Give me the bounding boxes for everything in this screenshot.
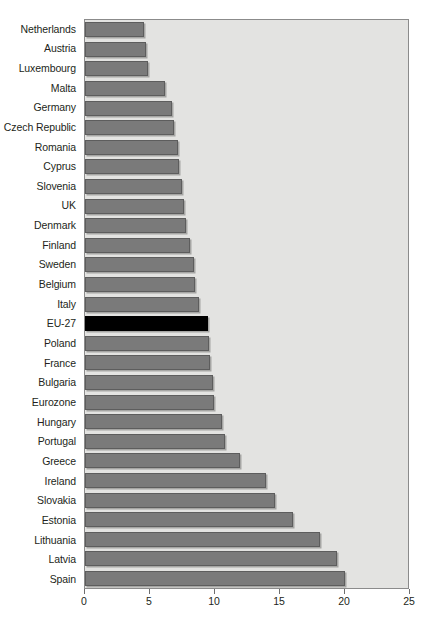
bar [85, 238, 190, 253]
bar [85, 453, 240, 468]
x-tick-mark [409, 589, 410, 594]
bar-row [85, 314, 408, 334]
category-label: Poland [0, 334, 80, 354]
bar-row [85, 157, 408, 177]
bar-row [85, 79, 408, 99]
bar-row [85, 59, 408, 79]
bar-row [85, 353, 408, 373]
bar [85, 375, 213, 390]
bar [85, 414, 222, 429]
bar [85, 218, 186, 233]
bar [85, 395, 214, 410]
bars-layer [85, 20, 408, 588]
bar [85, 493, 275, 508]
bar-row [85, 431, 408, 451]
bar-row [85, 20, 408, 40]
category-label: Malta [0, 78, 80, 98]
bar-row [85, 294, 408, 314]
bar [85, 120, 174, 135]
bar [85, 22, 144, 37]
x-tick-label: 15 [273, 596, 285, 607]
bar [85, 101, 172, 116]
bar-row [85, 98, 408, 118]
bar-row [85, 275, 408, 295]
x-tick-mark [84, 589, 85, 594]
bar [85, 532, 320, 547]
category-label: Romania [0, 137, 80, 157]
category-label: Netherlands [0, 19, 80, 39]
category-label: Belgium [0, 275, 80, 295]
bar-row [85, 177, 408, 197]
x-tick-mark [214, 589, 215, 594]
category-label: Luxembourg [0, 58, 80, 78]
category-label: Austria [0, 39, 80, 59]
bar-row [85, 569, 408, 589]
x-tick-label: 5 [146, 596, 152, 607]
category-axis-labels: NetherlandsAustriaLuxembourgMaltaGermany… [0, 19, 80, 589]
bar-row [85, 471, 408, 491]
x-tick-label: 20 [338, 596, 350, 607]
bar [85, 61, 148, 76]
bar-row [85, 510, 408, 530]
bar-row [85, 216, 408, 236]
x-axis: 0510152025 [84, 589, 409, 620]
bar [85, 551, 337, 566]
bar-row [85, 118, 408, 138]
bar [85, 336, 209, 351]
category-label: Hungary [0, 412, 80, 432]
bar-row [85, 196, 408, 216]
category-label: Finland [0, 235, 80, 255]
category-label: Portugal [0, 432, 80, 452]
bar-row [85, 40, 408, 60]
bar [85, 571, 345, 586]
bar [85, 81, 165, 96]
category-label: France [0, 353, 80, 373]
x-tick-mark [344, 589, 345, 594]
bar-row [85, 373, 408, 393]
bar [85, 473, 266, 488]
category-label: Latvia [0, 550, 80, 570]
bar-row [85, 392, 408, 412]
category-label: Ireland [0, 471, 80, 491]
bar-row [85, 255, 408, 275]
category-label: Slovenia [0, 176, 80, 196]
category-label: Eurozone [0, 392, 80, 412]
category-label: EU-27 [0, 314, 80, 334]
bar-row [85, 236, 408, 256]
plot-area [84, 19, 409, 589]
bar-row [85, 138, 408, 158]
category-label: Denmark [0, 216, 80, 236]
bar [85, 159, 179, 174]
category-label: Spain [0, 569, 80, 589]
bar [85, 297, 199, 312]
x-tick-mark [149, 589, 150, 594]
bar-row [85, 334, 408, 354]
bar-row [85, 549, 408, 569]
category-label: Estonia [0, 510, 80, 530]
bar-chart: NetherlandsAustriaLuxembourgMaltaGermany… [0, 0, 431, 620]
category-label: Lithuania [0, 530, 80, 550]
bar [85, 179, 182, 194]
bar [85, 355, 210, 370]
bar [85, 434, 225, 449]
bar [85, 257, 194, 272]
bar-row [85, 490, 408, 510]
category-label: UK [0, 196, 80, 216]
bar [85, 512, 293, 527]
category-label: Sweden [0, 255, 80, 275]
category-label: Czech Republic [0, 117, 80, 137]
category-label: Bulgaria [0, 373, 80, 393]
category-label: Slovakia [0, 491, 80, 511]
category-label: Germany [0, 98, 80, 118]
bar [85, 277, 195, 292]
bar [85, 199, 184, 214]
x-tick-mark [279, 589, 280, 594]
bar-row [85, 412, 408, 432]
bar-row [85, 451, 408, 471]
category-label: Italy [0, 294, 80, 314]
category-label: Cyprus [0, 157, 80, 177]
x-tick-label: 0 [81, 596, 87, 607]
bar-row [85, 529, 408, 549]
bar [85, 42, 146, 57]
x-tick-label: 25 [403, 596, 415, 607]
